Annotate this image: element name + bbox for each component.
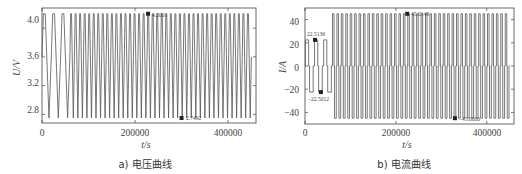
data-point-marker (146, 12, 150, 16)
y-tick-label: 40 (290, 17, 300, 27)
data-point-marker (405, 12, 409, 16)
voltage-curve (42, 14, 251, 118)
data-point-marker (180, 116, 184, 120)
x-tick-label: 200000 (382, 128, 411, 138)
high-negative-current-annotation: −45.0000 (459, 116, 480, 122)
max-voltage-annotation: 4.2001 (152, 12, 167, 18)
voltage-chart-panel: 4.0 3.6 3.2 2.8 0 200000 400000 t/s U/V … (0, 0, 261, 174)
voltage-chart-caption: a) 电压曲线 (110, 156, 180, 171)
x-axis-label: t/s (141, 139, 151, 150)
y-tick-label: 2.8 (27, 105, 39, 115)
y-axis-label: I/A (277, 60, 288, 74)
y-axis-label: U/V (11, 58, 22, 76)
low-positive-current-annotation: 22.5136 (307, 31, 325, 37)
y-tick-label: 20 (290, 40, 300, 50)
current-chart-panel: 40 20 0 −20 −40 0 200000 400000 t/s I/A … (261, 0, 522, 174)
data-point-marker (453, 116, 457, 120)
current-chart: 40 20 0 −20 −40 0 200000 400000 t/s I/A … (261, 0, 522, 174)
data-point-marker (313, 38, 317, 42)
x-tick-label: 400000 (473, 128, 502, 138)
current-chart-caption: b) 电流曲线 (369, 156, 439, 171)
x-tick-label: 0 (40, 128, 45, 138)
y-tick-label: 3.6 (27, 51, 39, 61)
voltage-plot-area (42, 8, 256, 123)
y-tick-label: 3.2 (27, 78, 39, 88)
y-tick-label: −40 (284, 108, 299, 118)
y-tick-label: −20 (284, 85, 299, 95)
current-plot-area (305, 8, 514, 124)
low-negative-current-annotation: −22.5012 (308, 96, 329, 102)
x-tick-label: 400000 (214, 128, 243, 138)
data-point-marker (319, 90, 323, 94)
x-axis-label: t/s (402, 139, 412, 150)
current-curve (305, 14, 509, 118)
y-tick-label: 0 (294, 63, 299, 73)
x-tick-label: 0 (303, 128, 308, 138)
voltage-chart: 4.0 3.6 3.2 2.8 0 200000 400000 t/s U/V … (0, 0, 261, 174)
high-positive-current-annotation: 45.0148 (411, 11, 429, 17)
x-tick-label: 200000 (121, 128, 150, 138)
y-tick-label: 4.0 (27, 15, 39, 25)
min-voltage-annotation: 2.7492 (186, 115, 201, 121)
